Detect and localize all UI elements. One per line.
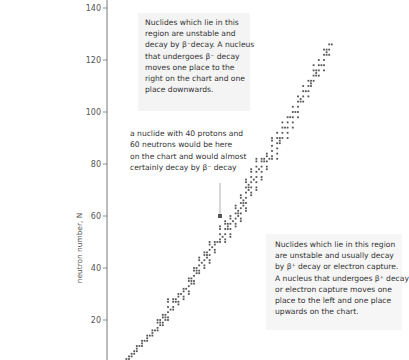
nuclide-dot (198, 257, 200, 259)
nuclide-dot (276, 148, 278, 150)
note-line: upwards on the chart. (275, 306, 402, 317)
nuclide-dot (256, 189, 258, 191)
nuclide-dot (188, 291, 190, 293)
nuclide-dot (310, 83, 312, 85)
nuclide-dot (276, 158, 278, 160)
nuclide-dot (136, 345, 138, 347)
nuclide-dot (266, 161, 268, 163)
nuclide-dot (219, 228, 221, 230)
nuclide-dot (214, 241, 216, 243)
nuclide-dot (198, 270, 200, 272)
nuclide-dot (178, 304, 180, 306)
nuclide-dot (159, 322, 161, 324)
nuclide-dot (209, 244, 211, 246)
nuclide-dot (167, 319, 169, 321)
y-tick-label: 140 (86, 4, 101, 13)
note-line: on the chart and would almost (130, 151, 260, 162)
nuclide-dot (292, 111, 294, 113)
nuclide-dot (232, 220, 234, 222)
nuclide-dot (271, 137, 273, 139)
nuclide-dot (146, 340, 148, 342)
nuclide-dot (159, 319, 161, 321)
nuclide-dot (295, 111, 297, 113)
nuclide-dot (261, 166, 263, 168)
nuclide-dot (292, 122, 294, 124)
nuclide-dot (250, 192, 252, 194)
nuclide-dot (328, 44, 330, 46)
nuclide-dot (175, 298, 177, 300)
nuclide-dot (144, 340, 146, 342)
nuclide-dot (302, 85, 304, 87)
nuclide-dot (131, 356, 133, 358)
nuclide-dot (323, 49, 325, 51)
y-tick-label: 40 (91, 264, 101, 273)
nuclide-dot (300, 101, 302, 103)
nuclide-dot (248, 189, 250, 191)
nuclide-dot (323, 54, 325, 56)
nuclide-dot (235, 207, 237, 209)
nuclide-dot (141, 340, 143, 342)
nuclide-dot (185, 288, 187, 290)
nuclide-dot (248, 184, 250, 186)
nuclide-dot (183, 298, 185, 300)
nuclide-dot (245, 192, 247, 194)
note-line: moves one place to the (145, 62, 244, 73)
nuclide-dot (266, 166, 268, 168)
nuclide-dot (313, 70, 315, 72)
nuclide-dot (224, 220, 226, 222)
nuclide-dot (227, 226, 229, 228)
nuclide-dot (162, 324, 164, 326)
nuclide-dot (240, 220, 242, 222)
nuclide-dot (282, 122, 284, 124)
y-tick-label: 80 (91, 160, 101, 169)
nuclide-dot (191, 283, 193, 285)
nuclide-dot (204, 259, 206, 261)
nuclide-dot (250, 194, 252, 196)
nuclide-dot (235, 226, 237, 228)
nuclide-dot (235, 205, 237, 207)
note-line: place downwards. (145, 84, 244, 95)
nuclide-dot (183, 291, 185, 293)
nuclide-dot (308, 85, 310, 87)
nuclide-dot (136, 350, 138, 352)
nuclide-dot (211, 246, 213, 248)
nuclide-dot (297, 116, 299, 118)
nuclide-dot (315, 72, 317, 74)
note-line: right on the chart and one (145, 73, 244, 84)
nuclide-dot (154, 330, 156, 332)
nuclide-dot (310, 80, 312, 82)
nuclide-dot (297, 101, 299, 103)
nuclide-dot (292, 127, 294, 129)
nuclide-dot (209, 249, 211, 251)
nuclide-dot (230, 236, 232, 238)
nuclide-dot (172, 298, 174, 300)
nuclide-dot (206, 254, 208, 256)
nuclide-dot (318, 59, 320, 61)
nuclide-dot (331, 44, 333, 46)
nuclide-dot (204, 254, 206, 256)
nuclide-dot (245, 187, 247, 189)
nuclide-dot (196, 267, 198, 269)
nuclide-dot (302, 101, 304, 103)
nuclide-dot (222, 236, 224, 238)
nuclide-dot (219, 239, 221, 241)
nuclide-dot (289, 116, 291, 118)
nuclide-dot (261, 179, 263, 181)
nuclide-dot (227, 228, 229, 230)
nuclide-dot (214, 252, 216, 254)
nuclide-dot (271, 145, 273, 147)
nuclide-dot (165, 317, 167, 319)
nuclide-dot (323, 59, 325, 61)
nuclide-dot (279, 140, 281, 142)
nuclide-dot (326, 54, 328, 56)
nuclide-dot (188, 285, 190, 287)
nuclide-dot (276, 142, 278, 144)
nuclide-dot (198, 259, 200, 261)
nuclide-dot (206, 252, 208, 254)
nuclide-dot (287, 137, 289, 139)
nuclide-dot (308, 96, 310, 98)
nuclide-dot (308, 80, 310, 82)
nuclide-dot (326, 49, 328, 51)
nuclide-dot (302, 90, 304, 92)
note-line: Nuclides which lie in this (145, 17, 244, 28)
